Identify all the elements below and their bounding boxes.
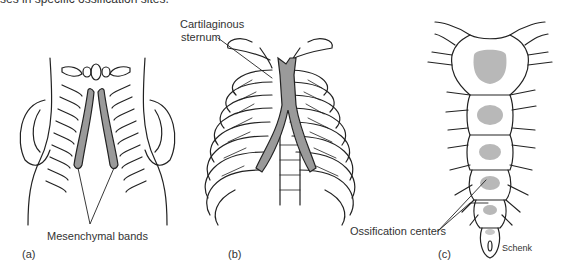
artist-credit: Schenk bbox=[502, 242, 532, 255]
panel-a-drawing bbox=[20, 58, 175, 225]
label-cartilaginous: Cartilaginous bbox=[180, 18, 244, 31]
panel-label-a: (a) bbox=[22, 248, 35, 260]
label-sternum: sternum bbox=[181, 31, 221, 44]
panel-b-drawing bbox=[205, 38, 355, 225]
panel-label-c: (c) bbox=[438, 248, 451, 260]
label-ossification-centers: Ossification centers bbox=[350, 225, 446, 238]
panel-c-drawing bbox=[428, 22, 552, 258]
panel-label-b: (b) bbox=[228, 248, 241, 260]
label-mesenchymal-bands: Mesenchymal bands bbox=[47, 230, 148, 243]
